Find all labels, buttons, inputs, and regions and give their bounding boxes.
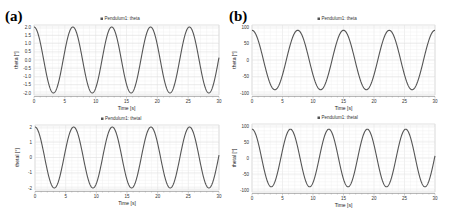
x-tick-label: 0: [251, 99, 254, 104]
y-tick-label: 1.5: [25, 33, 32, 38]
y-tick-label: -2.0: [23, 91, 31, 96]
legend-label: Pendulum1: theta: [105, 16, 141, 21]
legend-label: Pendulum1: thetaI: [322, 115, 359, 120]
x-tick-label: 5: [281, 99, 284, 104]
y-axis-label: theta [°]: [231, 51, 237, 69]
y-tick-label: -2: [28, 186, 32, 191]
x-tick-label: 0: [34, 194, 37, 199]
x-tick-label: 30: [216, 99, 222, 104]
x-tick-label: 15: [341, 196, 347, 201]
y-tick-label: 50: [244, 41, 250, 46]
x-tick-label: 30: [216, 194, 222, 199]
y-tick-label: -1.5: [23, 82, 31, 87]
x-tick-label: 15: [124, 194, 130, 199]
x-axis-label: Time [s]: [118, 105, 136, 111]
y-tick-label: -100: [240, 188, 250, 193]
x-tick-label: 5: [64, 194, 67, 199]
x-tick-label: 20: [371, 196, 377, 201]
x-tick-label: 0: [251, 196, 254, 201]
y-tick-label: -50: [242, 74, 249, 79]
y-tick-label: 2: [29, 125, 32, 130]
x-tick-label: 10: [94, 194, 100, 199]
legend-marker: [101, 18, 104, 21]
y-tick-label: 1.0: [25, 41, 32, 46]
y-tick-label: 0.5: [25, 49, 32, 54]
x-axis-label: Time [s]: [335, 105, 353, 111]
legend-marker: [318, 18, 321, 21]
x-tick-label: 25: [402, 196, 408, 201]
y-tick-label: 0.0: [25, 58, 32, 63]
y-tick-label: 100: [241, 124, 249, 129]
x-tick-label: 10: [93, 99, 99, 104]
y-axis-label: thetaI [°]: [231, 148, 237, 167]
x-tick-label: 10: [310, 196, 316, 201]
x-tick-label: 30: [432, 196, 438, 201]
y-axis-label: thetaI [°]: [14, 148, 20, 167]
x-tick-label: 20: [155, 194, 161, 199]
legend-marker: [101, 118, 104, 121]
legend-label: Pendulum1: thetaI: [105, 116, 142, 121]
x-tick-label: 15: [341, 99, 347, 104]
y-tick-label: -1: [28, 170, 32, 175]
x-tick-label: 15: [124, 99, 130, 104]
y-tick-label: 0: [29, 155, 32, 160]
x-axis-label: Time [s]: [118, 200, 136, 206]
legend-marker: [318, 117, 321, 120]
y-tick-label: 2.0: [25, 25, 32, 30]
x-tick-label: 10: [310, 99, 316, 104]
x-axis-label: Time [s]: [335, 202, 353, 208]
y-axis-label: theta [°]: [13, 51, 19, 69]
x-tick-label: 20: [371, 99, 377, 104]
legend-label: Pendulum1: theta: [322, 16, 358, 21]
y-tick-label: 1: [29, 140, 32, 145]
y-tick-label: -1.0: [23, 74, 31, 79]
x-tick-label: 25: [186, 99, 192, 104]
x-tick-label: 25: [402, 99, 408, 104]
x-tick-label: 5: [281, 196, 284, 201]
x-tick-label: 25: [186, 194, 192, 199]
y-tick-label: 100: [241, 25, 249, 30]
x-tick-label: 30: [432, 99, 438, 104]
y-tick-label: 50: [244, 140, 250, 145]
y-tick-label: 0: [246, 58, 249, 63]
x-tick-label: 5: [64, 99, 67, 104]
y-tick-label: 0: [246, 156, 249, 161]
y-tick-label: -100: [240, 91, 250, 96]
x-tick-label: 20: [155, 99, 161, 104]
y-tick-label: -0.5: [23, 66, 31, 71]
y-tick-label: -50: [242, 172, 249, 177]
x-tick-label: 0: [33, 99, 36, 104]
charts-canvas: 2.01.51.00.50.0-0.5-1.0-1.5-2.0051015202…: [0, 0, 449, 219]
